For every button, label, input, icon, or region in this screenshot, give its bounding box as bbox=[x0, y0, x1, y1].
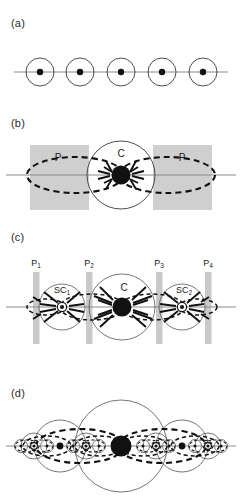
sub-center-core-sc2 bbox=[177, 302, 186, 311]
center-core-b bbox=[112, 166, 131, 185]
center-label-c: C bbox=[117, 148, 124, 159]
panel-b: (b) C P P bbox=[0, 112, 242, 225]
center-label-c: C bbox=[120, 282, 127, 293]
panel-c-figure: SC1 C SC2 P1 P2 P3 P4 bbox=[0, 225, 242, 362]
panel-a-label: (a) bbox=[11, 17, 25, 29]
slab-left-label: P bbox=[55, 152, 62, 163]
pillar-p1-label: P1 bbox=[31, 258, 41, 269]
panel-b-label: (b) bbox=[11, 117, 25, 129]
panel-d: (d) bbox=[0, 362, 242, 496]
panel-d-label: (d) bbox=[11, 387, 25, 399]
panel-c-label: (c) bbox=[11, 231, 24, 243]
pillar-p1 bbox=[33, 272, 40, 344]
center-core-c bbox=[113, 298, 132, 317]
level-1-center-core bbox=[111, 436, 132, 457]
sub-center-label-sc1: SC1 bbox=[54, 285, 71, 296]
pillar-p4-label: P4 bbox=[203, 258, 213, 269]
pillar-p4 bbox=[205, 272, 212, 344]
panel-b-figure: C P P bbox=[0, 112, 242, 225]
pillar-p3-label: P3 bbox=[154, 258, 164, 269]
panel-d-figure bbox=[0, 362, 242, 496]
panel-c: (c) bbox=[0, 225, 242, 362]
sub-center-core-sc1 bbox=[57, 302, 66, 311]
sub-center-label-sc2: SC2 bbox=[176, 285, 193, 296]
panel-a-figure bbox=[0, 0, 242, 112]
pillar-p2-label: P2 bbox=[84, 258, 94, 269]
panel-a: (a) bbox=[0, 0, 242, 112]
slab-right-label: P bbox=[179, 152, 186, 163]
